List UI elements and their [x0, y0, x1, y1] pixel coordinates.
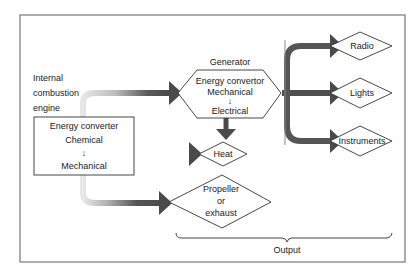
generator-box-line-1: Energy convertor [196, 76, 265, 86]
output-label: Output [273, 245, 301, 255]
propeller-label-line-3: exhaust [205, 208, 237, 218]
engine-caption-line-3: engine [33, 103, 60, 113]
radio-label: Radio [350, 41, 374, 51]
generator-caption: Generator [210, 57, 251, 67]
output-brace [176, 233, 392, 242]
engine-caption-line-2: combustion [33, 88, 79, 98]
engine-box-line-3: Mechanical [61, 161, 107, 171]
lights-label: Lights [350, 88, 375, 98]
arrow-engine-to-generator [83, 93, 175, 117]
propeller-label-line-2: or [217, 196, 225, 206]
arrow-engine-to-propeller [83, 175, 165, 203]
engine-box-line-1: Energy converter [50, 121, 119, 131]
arrow-generator-to-instruments [287, 93, 336, 141]
engine-caption-line-1: Internal [33, 73, 63, 83]
engine-box-line-2: Chemical [65, 135, 103, 145]
generator-box-arrow: ↓ [228, 96, 233, 106]
arrow-generator-to-radio [287, 46, 336, 93]
heat-label: Heat [213, 149, 233, 159]
instruments-label: Instruments [338, 136, 386, 146]
generator-box-line-3: Electrical [212, 106, 249, 116]
propeller-label-line-1: Propeller [203, 184, 239, 194]
energy-flow-diagram: Internal combustion engine Energy conver… [0, 0, 420, 279]
engine-box-arrow: ↓ [82, 148, 87, 158]
